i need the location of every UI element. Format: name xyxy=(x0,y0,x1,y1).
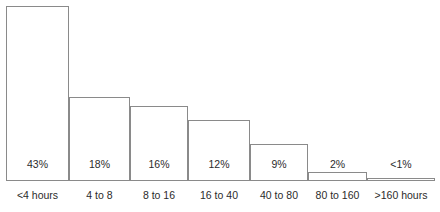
x-axis-tick-label: 16 to 40 xyxy=(188,188,250,202)
bar-value-label: 12% xyxy=(188,158,250,170)
bars-layer: 43%18%16%12%9%2%<1% xyxy=(0,0,440,186)
bar-value-label: 16% xyxy=(130,158,188,170)
x-axis-tick-label: 8 to 16 xyxy=(130,188,188,202)
bar-value-label: 9% xyxy=(250,158,308,170)
histogram-chart: 43%18%16%12%9%2%<1% <4 hours4 to 88 to 1… xyxy=(0,0,440,212)
x-axis-tick-label: 40 to 80 xyxy=(250,188,308,202)
x-axis-baseline xyxy=(6,180,435,181)
bar xyxy=(6,6,69,181)
bar-value-label: 43% xyxy=(6,158,69,170)
x-axis-tick-labels: <4 hours4 to 88 to 1616 to 4040 to 8080 … xyxy=(0,188,440,210)
x-axis-tick-label: 80 to 160 xyxy=(308,188,367,202)
x-axis-tick-label: <4 hours xyxy=(6,188,69,202)
bar-value-label: <1% xyxy=(367,158,435,170)
bar-value-label: 2% xyxy=(308,158,367,170)
x-axis-tick-label: >160 hours xyxy=(367,188,435,202)
plot-area: 43%18%16%12%9%2%<1% xyxy=(0,0,440,186)
x-axis-tick-label: 4 to 8 xyxy=(69,188,130,202)
bar-value-label: 18% xyxy=(69,158,130,170)
bar xyxy=(188,120,250,181)
